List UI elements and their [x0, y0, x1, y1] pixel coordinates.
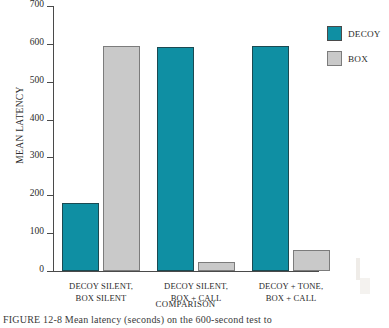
x-category-label-1-line1: DECOY SILENT,	[69, 281, 133, 291]
bar-box-group-2	[198, 262, 235, 271]
legend-label-decoy: DECOY	[348, 29, 381, 39]
bar-decoy-group-3	[252, 46, 289, 271]
bar-decoy-group-2	[157, 47, 194, 271]
y-tick-400: 400	[47, 120, 53, 121]
y-tick-label-500: 500	[30, 75, 44, 85]
legend-item-decoy: DECOY	[327, 26, 381, 41]
legend: DECOY BOX	[327, 26, 381, 76]
x-category-label-2-line1: DECOY SILENT,	[164, 281, 228, 291]
y-tick-500: 500	[47, 82, 53, 83]
legend-swatch-decoy-icon	[327, 26, 342, 41]
y-tick-label-0: 0	[39, 264, 44, 274]
y-tick-200: 200	[47, 195, 53, 196]
y-tick-label-700: 700	[30, 0, 44, 9]
scan-artifact	[360, 278, 370, 294]
x-category-label-3-line1: DECOY + TONE,	[259, 281, 323, 291]
y-tick-300: 300	[47, 157, 53, 158]
y-tick-600: 600	[47, 44, 53, 45]
y-axis-title: MEAN LATENCY	[15, 60, 25, 190]
bar-decoy-group-1	[62, 203, 99, 271]
y-tick-0: 0	[47, 271, 53, 272]
legend-swatch-box-icon	[327, 51, 342, 66]
y-tick-100: 100	[47, 233, 53, 234]
legend-item-box: BOX	[327, 51, 381, 66]
x-axis-title: COMPARISON	[53, 299, 318, 309]
y-tick-label-400: 400	[30, 113, 44, 123]
plot-area: 700 600 500 400 300 200 100 0	[53, 6, 318, 271]
y-axis-line	[53, 6, 54, 272]
y-tick-label-100: 100	[30, 226, 44, 236]
legend-label-box: BOX	[348, 54, 368, 64]
figure-caption-text: FIGURE 12-8 Mean latency (seconds) on th…	[3, 314, 272, 325]
scan-artifact	[356, 258, 360, 280]
bar-box-group-1	[103, 46, 140, 271]
figure-caption: FIGURE 12-8 Mean latency (seconds) on th…	[3, 313, 386, 328]
y-tick-label-600: 600	[30, 37, 44, 47]
y-tick-label-300: 300	[30, 150, 44, 160]
figure-bar-chart: MEAN LATENCY 700 600 500 400 300 200 100…	[0, 0, 389, 328]
bar-box-group-3	[293, 250, 330, 271]
x-axis-line	[53, 271, 319, 272]
y-tick-label-200: 200	[30, 188, 44, 198]
y-tick-700: 700	[47, 6, 53, 7]
